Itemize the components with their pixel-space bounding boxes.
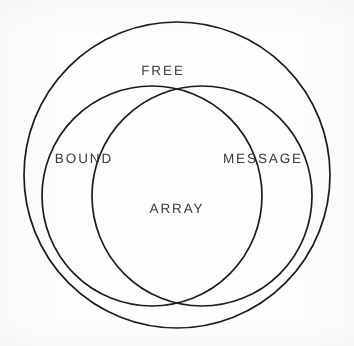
bound-set-circle (42, 86, 262, 306)
region-label-free: FREE (141, 63, 185, 78)
venn-diagram-figure: FREE BOUND MESSAGE ARRAY (0, 0, 354, 346)
region-label-array: ARRAY (149, 201, 204, 216)
venn-diagram-canvas (0, 0, 354, 346)
region-label-bound: BOUND (55, 151, 113, 166)
region-label-message: MESSAGE (223, 151, 303, 166)
message-set-circle (92, 86, 312, 306)
